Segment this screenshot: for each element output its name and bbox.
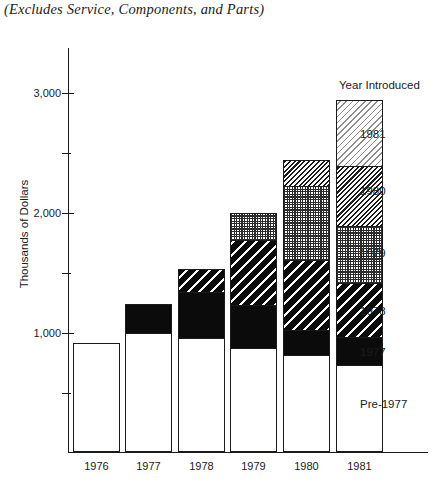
x-tick-label-1980: 1980 (277, 460, 337, 472)
bar-1976 (73, 48, 120, 452)
bar-1978-segment-pre-1977 (178, 338, 225, 452)
y-tick-label-1000: 1,000 (21, 327, 61, 339)
bar-1980-segment-1978 (283, 260, 330, 330)
legend-label-1981: 1981 (360, 128, 386, 140)
bar-1979-segment-1978 (230, 240, 277, 305)
legend-label-pre-1977: Pre-1977 (360, 398, 407, 410)
legend-title: Year Introduced (339, 79, 420, 91)
legend-label-1978: 1978 (360, 305, 386, 317)
legend-label-1977: 1977 (360, 346, 386, 358)
bar-1978-segment-1977 (178, 292, 225, 338)
y-axis-title: Thousands of Dollars (18, 174, 30, 294)
bar-1980-segment-pre-1977 (283, 355, 330, 452)
bar-1979-segment-pre-1977 (230, 348, 277, 452)
x-tick-label-1979: 1979 (224, 460, 284, 472)
bar-1980-segment-1979 (283, 186, 330, 260)
bar-1980-segment-1980 (283, 160, 330, 186)
y-tick-1500 (62, 273, 71, 274)
y-tick-label-3000: 3,000 (21, 87, 61, 99)
x-tick-label-1978: 1978 (172, 460, 232, 472)
bar-1977-segment-1977 (125, 304, 172, 333)
bar-1980-segment-1977 (283, 330, 330, 355)
bar-1977 (125, 48, 172, 452)
legend-label-1980: 1980 (360, 185, 386, 197)
x-tick-label-1977: 1977 (119, 460, 179, 472)
bar-1979-segment-1979 (230, 213, 277, 240)
legend-label-1979: 1979 (360, 247, 386, 259)
bar-1978 (178, 48, 225, 452)
x-tick-label-1981: 1981 (330, 460, 390, 472)
bar-1979-segment-1977 (230, 305, 277, 348)
bar-1977-segment-pre-1977 (125, 333, 172, 452)
y-tick-500 (62, 393, 71, 394)
x-tick-label-1976: 1976 (67, 460, 127, 472)
y-axis-line (68, 48, 69, 452)
bar-1978-segment-1978 (178, 269, 225, 292)
y-tick-2500 (62, 153, 71, 154)
bar-1979 (230, 48, 277, 452)
bar-1976-segment-pre-1977 (73, 343, 120, 452)
stacked-bar-chart: (Excludes Service, Components, and Parts… (0, 0, 442, 485)
bar-1980 (283, 48, 330, 452)
chart-title: (Excludes Service, Components, and Parts… (4, 1, 264, 18)
